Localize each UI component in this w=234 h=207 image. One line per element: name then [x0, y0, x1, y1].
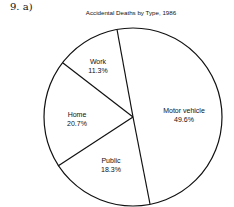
slice-value: 20.7% — [67, 120, 87, 127]
slice-value: 49.6% — [174, 116, 194, 123]
slice-name: Work — [90, 58, 107, 65]
slice-value: 11.3% — [88, 67, 107, 74]
slice-name: Public — [101, 157, 121, 164]
slice-name: Motor vehicle — [163, 107, 205, 114]
slice-value: 18.3% — [101, 166, 121, 173]
pie-chart: Motor vehicle 49.6% Public 18.3% Home 20… — [0, 0, 234, 207]
slice-name: Home — [68, 111, 87, 118]
